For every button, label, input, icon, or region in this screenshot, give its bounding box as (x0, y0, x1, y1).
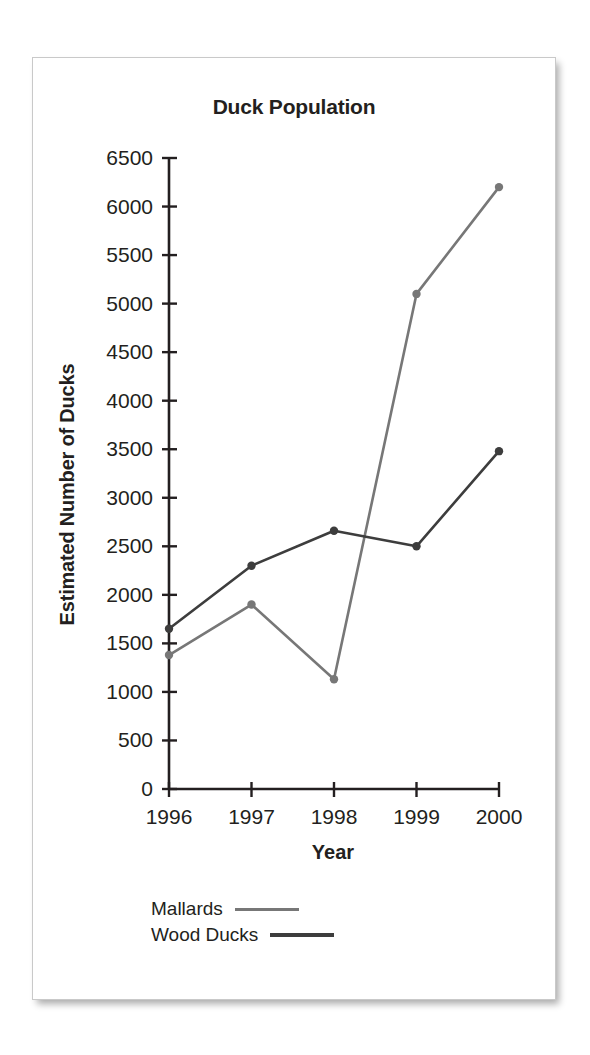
data-series-group (165, 183, 503, 684)
data-point (165, 651, 173, 659)
y-tick-label: 3500 (106, 437, 153, 460)
y-tick-label: 5000 (106, 292, 153, 315)
y-tick-label: 6000 (106, 195, 153, 218)
y-axis: 6500600055005000450040003500300025002000… (106, 146, 177, 800)
data-point (412, 542, 420, 550)
y-tick-label: 2500 (106, 534, 153, 557)
y-tick-label: 2000 (106, 583, 153, 606)
y-tick-label: 6500 (106, 146, 153, 169)
y-tick-label: 3000 (106, 486, 153, 509)
data-point (165, 625, 173, 633)
x-tick-label: 1999 (393, 805, 440, 828)
series-line-wood-ducks (169, 451, 499, 629)
y-tick-labels: 6500600055005000450040003500300025002000… (106, 146, 153, 800)
x-tick-label: 1997 (228, 805, 275, 828)
y-tick-label: 0 (141, 777, 153, 800)
data-point (247, 562, 255, 570)
x-tick-label: 2000 (476, 805, 523, 828)
legend-label-wood-ducks: Wood Ducks (151, 924, 258, 946)
y-tick-label: 5500 (106, 243, 153, 266)
y-tick-label: 4000 (106, 389, 153, 412)
legend-item-wood-ducks: Wood Ducks (151, 922, 334, 948)
series-line-mallards (169, 187, 499, 679)
legend-item-mallards: Mallards (151, 896, 334, 922)
chart-card: Duck Population Estimated Number of Duck… (32, 57, 556, 1000)
data-point (330, 527, 338, 535)
x-axis: 19961997199819992000 (146, 782, 523, 828)
legend-swatch-wood-ducks (270, 933, 334, 937)
x-tick-labels: 19961997199819992000 (146, 805, 523, 828)
x-tick-label: 1998 (311, 805, 358, 828)
y-tick-label: 4500 (106, 340, 153, 363)
y-tick-label: 1000 (106, 680, 153, 703)
legend-swatch-mallards (235, 908, 299, 911)
y-tick-label: 500 (118, 728, 153, 751)
chart-legend: Mallards Wood Ducks (151, 896, 334, 948)
data-point (495, 447, 503, 455)
data-point (247, 600, 255, 608)
line-chart-plot: 6500600055005000450040003500300025002000… (33, 58, 557, 1001)
x-tick-label: 1996 (146, 805, 193, 828)
data-point (412, 290, 420, 298)
data-point (495, 183, 503, 191)
y-tick-label: 1500 (106, 631, 153, 654)
legend-label-mallards: Mallards (151, 898, 223, 920)
data-point (330, 675, 338, 683)
page-root: Duck Population Estimated Number of Duck… (0, 0, 590, 1055)
